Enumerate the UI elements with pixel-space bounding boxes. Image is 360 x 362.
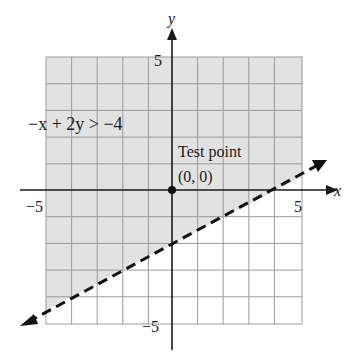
- inequality-label: −x + 2y > −4: [28, 114, 123, 134]
- test-point-marker: [168, 186, 176, 194]
- y-axis-label: y: [166, 10, 176, 28]
- x-axis-label: x: [333, 182, 341, 199]
- inequality-graph: y x 5 −5 −5 5 −x + 2y > −4 Test point (0…: [0, 0, 360, 362]
- y-min-tick-label: −5: [142, 318, 159, 335]
- x-min-tick-label: −5: [26, 198, 43, 215]
- x-max-tick-label: 5: [294, 198, 302, 215]
- boundary-arrow-lower-icon: [20, 314, 38, 326]
- shaded-solution-region: [46, 57, 302, 310]
- test-point-coords: (0, 0): [178, 168, 213, 186]
- y-axis-arrow-icon: [167, 28, 177, 40]
- y-max-tick-label: 5: [154, 52, 162, 69]
- test-point-title: Test point: [178, 143, 242, 161]
